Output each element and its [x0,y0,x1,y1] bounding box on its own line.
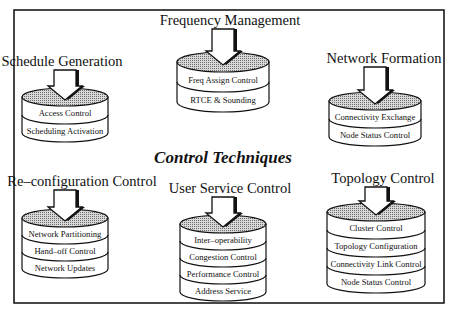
group-topology-control: Topology ControlCluster ControlTopology … [327,170,435,293]
group-title: Re–configuration Control [7,173,156,189]
diagram-title: Control Techniques [154,148,292,167]
layer-label: Network Updates [35,263,96,273]
layer-label: Freq Assign Control [188,75,258,85]
group-title: Frequency Management [160,12,301,28]
layer-label: Connectivity Link Control [330,259,422,269]
layer-label: Hand–off Control [34,246,96,256]
layer-label: Connectivity Exchange [335,112,416,122]
group-title: Topology Control [331,170,434,186]
group-reconfiguration-control: Re–configuration ControlNetwork Partitio… [7,173,156,278]
group-title: User Service Control [169,180,291,196]
layer-label: RTCE & Sounding [190,95,256,105]
cylinder: Inter–operabilityCongestion ControlPerfo… [180,215,266,301]
group-user-service-control: User Service ControlInter–operabilityCon… [169,180,291,301]
layer-label: Scheduling Activation [27,126,104,136]
group-title: Schedule Generation [1,53,123,69]
layer-label: Access Control [39,108,92,118]
layer-label: Cluster Control [349,223,403,233]
layer-label: Congestion Control [189,252,257,262]
layer-label: Inter–operability [194,235,252,245]
layer-label: Topology Configuration [334,241,418,251]
group-frequency-management: Frequency ManagementFreq Assign ControlR… [160,12,301,112]
layer-label: Node Status Control [341,277,412,287]
control-techniques-diagram: Control Techniques Schedule GenerationAc… [0,0,457,315]
group-title: Network Formation [327,50,443,66]
group-network-formation: Network FormationConnectivity ExchangeNo… [327,50,443,146]
layer-label: Address Service [195,286,251,296]
layer-label: Performance Control [187,269,260,279]
group-schedule-generation: Schedule GenerationAccess ControlSchedul… [1,53,123,142]
layer-label: Node Status Control [340,130,411,140]
cylinder: Cluster ControlTopology ConfigurationCon… [327,203,425,293]
layer-label: Network Partitioning [29,229,103,239]
